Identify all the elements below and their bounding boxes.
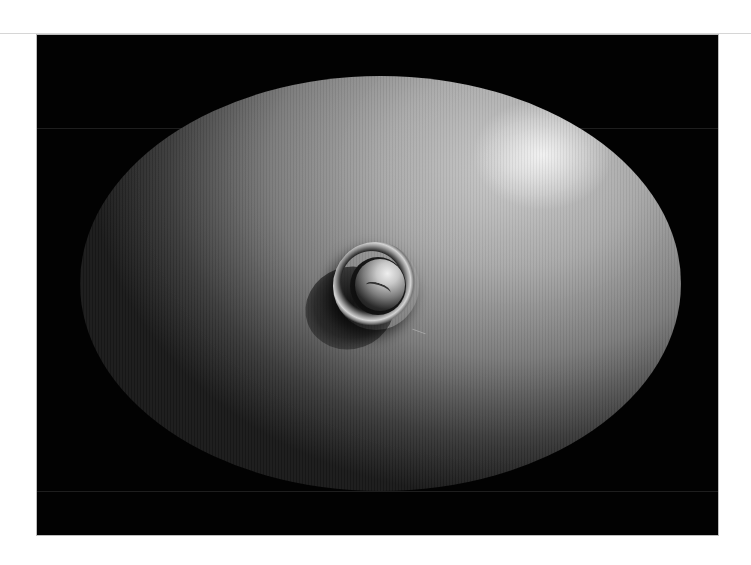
top-divider-line	[0, 33, 751, 34]
scan-line-artifact	[37, 491, 718, 492]
image-frame	[37, 35, 718, 535]
page	[0, 0, 751, 565]
